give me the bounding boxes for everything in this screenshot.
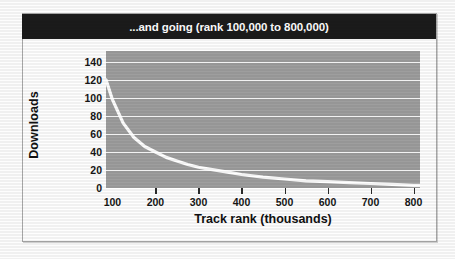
x-axis-title: Track rank (thousands) [106,212,420,226]
x-tick-mark-800 [414,188,415,194]
y-tick-label-140: 140 [84,56,102,68]
y-tick-label-120: 120 [84,74,102,86]
x-tick-mark-500 [285,188,286,194]
x-tick-label-100: 100 [104,196,122,208]
x-tick-label-200: 200 [147,196,165,208]
x-tick-label-700: 700 [362,196,380,208]
y-tick-label-20: 20 [90,164,102,176]
y-tick-label-0: 0 [96,182,102,194]
y-axis-title: Downloads [25,60,43,190]
y-tick-label-60: 60 [90,128,102,140]
x-tick-label-800: 800 [405,196,423,208]
chart-title: ...and going (rank 100,000 to 800,000) [129,21,328,33]
y-tick-label-100: 100 [84,92,102,104]
downloads-curve [106,51,420,188]
x-tick-label-600: 600 [319,196,337,208]
x-tick-label-500: 500 [276,196,294,208]
x-tick-mark-300 [198,188,199,194]
y-axis-tick-labels: 020406080100120140 [58,51,102,188]
plot-area [106,51,420,188]
chart-title-bar: ...and going (rank 100,000 to 800,000) [22,14,436,39]
chart-figure: ...and going (rank 100,000 to 800,000) D… [0,0,455,259]
x-tick-label-300: 300 [190,196,208,208]
x-tick-mark-600 [328,188,329,194]
x-tick-mark-700 [371,188,372,194]
x-tick-label-400: 400 [233,196,251,208]
y-axis-title-text: Downloads [27,91,41,159]
y-tick-label-80: 80 [90,110,102,122]
x-tick-mark-200 [155,188,156,194]
x-tick-mark-400 [241,188,242,194]
y-tick-label-40: 40 [90,146,102,158]
